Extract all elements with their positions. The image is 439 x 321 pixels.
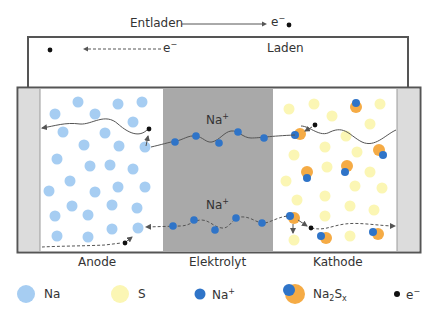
na-ion-label-bottom: Na+ — [206, 197, 229, 212]
legend-na2sx-label: Na2Sx — [313, 287, 347, 303]
external-circuit-wire — [28, 37, 408, 87]
charge-electron-label: e− — [163, 40, 177, 55]
discharge-electron-label: e− — [271, 14, 285, 29]
charge-arrow — [48, 47, 163, 53]
legend-electron-label: e− — [406, 287, 420, 302]
electrolyte-label: Elektrolyt — [189, 255, 246, 269]
electron-icon — [394, 291, 400, 297]
anode-current-collector — [19, 89, 40, 251]
legend-na-ion-label: Na+ — [212, 287, 235, 302]
electron-charge: − — [278, 14, 285, 23]
electron-icon — [287, 23, 292, 28]
discharge-label: Entladen — [130, 16, 183, 30]
legend-s-label: S — [138, 287, 146, 301]
na-ion-label-top: Na+ — [206, 112, 229, 127]
cathode-current-collector — [397, 89, 419, 251]
na-ion-icon — [195, 289, 206, 300]
battery-diagram — [0, 0, 439, 321]
cathode-label: Kathode — [313, 255, 363, 269]
charge-label: Laden — [267, 41, 304, 55]
electron-charge: − — [170, 40, 177, 49]
anode-label: Anode — [78, 255, 116, 269]
electron-icon — [48, 48, 53, 53]
na2sx-blue-icon — [283, 284, 295, 296]
s-atom-icon — [111, 285, 129, 303]
legend-na-label: Na — [44, 287, 60, 301]
na-atom-icon — [17, 285, 35, 303]
